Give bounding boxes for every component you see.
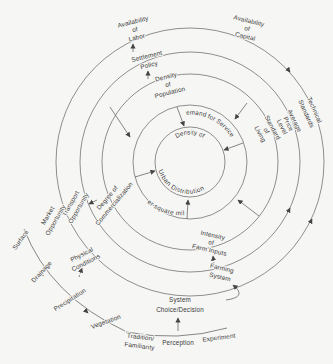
hub-top-label: Density of bbox=[174, 128, 207, 139]
label-settlement-policy: Settlement Policy bbox=[131, 49, 166, 73]
arrow-right-bottom-inward bbox=[238, 200, 259, 216]
arrow-commerce-to-transport bbox=[89, 200, 97, 204]
label-physical-conditions: Physical Conditions bbox=[66, 244, 101, 272]
svg-text:Labor: Labor bbox=[128, 32, 146, 43]
svg-text:System: System bbox=[169, 296, 191, 304]
hub-bottom-text: Urban Distribution bbox=[158, 168, 205, 194]
svg-text:Capital: Capital bbox=[234, 30, 256, 43]
svg-text:of: of bbox=[244, 24, 251, 32]
systems-diagram: Density of Urban Distribution Demand for… bbox=[0, 0, 333, 364]
hub-top-text: Density of bbox=[174, 128, 207, 139]
svg-text:of: of bbox=[164, 80, 171, 88]
svg-text:Policy: Policy bbox=[139, 59, 159, 71]
divider-arrow-left bbox=[135, 171, 155, 177]
ring-4 bbox=[80, 52, 300, 272]
svg-text:Surface: Surface bbox=[11, 228, 30, 251]
svg-text:Experiment: Experiment bbox=[202, 332, 236, 344]
ring-flow-arrows bbox=[287, 68, 312, 223]
label-market-opportunity: Market Opportunity bbox=[36, 198, 68, 237]
label-tradition-familiarity: Tradition/ Familiarity bbox=[124, 331, 157, 352]
label-vegetation: Vegetation bbox=[90, 312, 122, 330]
label-experiment: Experiment bbox=[202, 332, 236, 344]
label-system-choice-decision: System Choice/Decision bbox=[156, 296, 204, 313]
svg-text:of: of bbox=[131, 25, 138, 33]
divider-arrow-right bbox=[224, 143, 243, 150]
ring-hub bbox=[155, 127, 225, 197]
ring-3 bbox=[102, 74, 278, 250]
svg-text:Precipitation: Precipitation bbox=[52, 286, 87, 313]
label-precipitation: Precipitation bbox=[52, 286, 87, 313]
label-availability-of-labor: Availability of Labor bbox=[117, 14, 154, 44]
environment-arc-arrow-2 bbox=[85, 310, 88, 313]
label-perception: Perception bbox=[162, 339, 194, 347]
svg-text:Familiarity: Familiarity bbox=[124, 340, 156, 352]
label-density-of-population: Density of Population bbox=[150, 69, 186, 100]
hub-bottom-label: Urban Distribution bbox=[158, 168, 205, 194]
divider-arrow-bottom bbox=[187, 200, 188, 219]
svg-text:Vegetation: Vegetation bbox=[90, 312, 122, 330]
arrow-living-to-ring bbox=[235, 103, 247, 119]
divider-arrow-top-left bbox=[177, 107, 184, 126]
figure-canvas: Density of Urban Distribution Demand for… bbox=[0, 0, 333, 364]
label-availability-of-capital: Availability of Capital bbox=[229, 13, 266, 44]
svg-text:Choice/Decision: Choice/Decision bbox=[156, 306, 204, 313]
flow-arrow-bottom-right-inner bbox=[288, 208, 290, 212]
label-farming-system: Farming System bbox=[207, 262, 235, 284]
label-surface: Surface bbox=[11, 228, 30, 251]
svg-text:Perception: Perception bbox=[162, 339, 194, 347]
arrow-population-to-ring bbox=[110, 107, 130, 137]
label-standard-of-living: Standard of Living bbox=[250, 114, 282, 148]
